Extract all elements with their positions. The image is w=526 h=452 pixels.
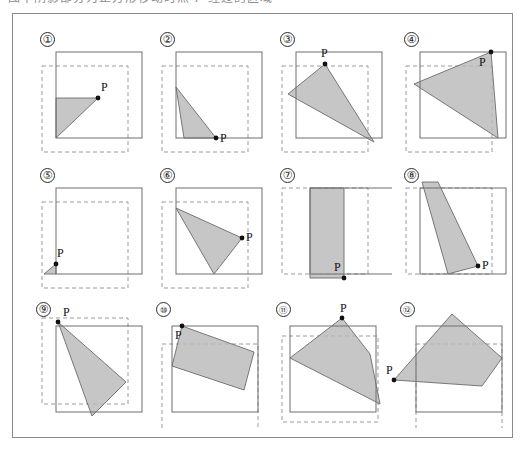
panel-12: ⑫P	[386, 296, 516, 428]
dashed-square-2	[162, 66, 248, 152]
point-p-dot-9	[56, 320, 61, 325]
panel-9: ⑨P	[22, 296, 152, 428]
shaded-region-11	[290, 318, 380, 404]
panel-2: ②P	[142, 24, 272, 156]
point-p-dot-3	[323, 62, 328, 67]
panel-3: ③P	[262, 24, 392, 156]
point-p-dot-4	[489, 50, 494, 55]
shaded-region-1	[56, 98, 98, 138]
top-caption-strip: 图中阴影部分为正方形移动时点 P 经过的区域	[0, 0, 526, 11]
point-p-label-11: P	[340, 302, 347, 314]
panel-7: ⑦P	[262, 160, 392, 292]
point-p-label-2: P	[220, 132, 227, 144]
panel-drawing-10	[142, 296, 272, 428]
panel-drawing-7	[262, 160, 392, 292]
panel-drawing-11	[262, 296, 392, 428]
point-p-dot-2	[214, 136, 219, 141]
point-p-dot-11	[340, 316, 345, 321]
figure-stage: 图中阴影部分为正方形移动时点 P 经过的区域 ①P②P③P④P⑤P⑥P⑦P⑧P⑨…	[0, 0, 526, 452]
panel-drawing-6	[142, 160, 272, 292]
point-p-dot-1	[96, 96, 101, 101]
point-p-label-8: P	[482, 259, 489, 271]
panel-10: ⑩P	[142, 296, 272, 428]
point-p-dot-7	[342, 276, 347, 281]
panel-4: ④P	[386, 24, 516, 156]
panel-1: ①P	[22, 24, 152, 156]
caption-text: 图中阴影部分为正方形移动时点 P 经过的区域	[8, 0, 273, 5]
panel-drawing-3	[262, 24, 392, 156]
panel-drawing-1	[22, 24, 152, 156]
point-p-label-4: P	[479, 56, 486, 68]
shaded-region-6	[176, 208, 242, 274]
shaded-region-8	[422, 182, 478, 274]
panel-8: ⑧P	[386, 160, 516, 292]
point-p-dot-5	[54, 262, 59, 267]
panel-5: ⑤P	[22, 160, 152, 292]
point-p-label-3: P	[321, 47, 328, 59]
shaded-region-9	[58, 322, 126, 416]
point-p-dot-8	[476, 264, 481, 269]
point-p-label-10: P	[175, 329, 182, 341]
point-p-dot-12	[392, 378, 397, 383]
panel-6: ⑥P	[142, 160, 272, 292]
shaded-region-10	[172, 326, 254, 390]
point-p-label-9: P	[63, 306, 70, 318]
panel-11: ⑪P	[262, 296, 392, 428]
panel-drawing-9	[22, 296, 152, 428]
shaded-region-2	[176, 87, 216, 138]
panel-drawing-8	[386, 160, 516, 292]
point-p-label-12: P	[386, 364, 393, 376]
point-p-label-7: P	[334, 261, 341, 273]
shaded-region-12	[394, 314, 502, 386]
panel-drawing-2	[142, 24, 272, 156]
solid-square-5	[56, 188, 142, 274]
panel-drawing-12	[386, 296, 516, 428]
point-p-label-1: P	[101, 81, 108, 93]
point-p-label-6: P	[246, 231, 253, 243]
point-p-dot-6	[240, 236, 245, 241]
panel-drawing-4	[386, 24, 516, 156]
dashed-square-5	[42, 202, 128, 288]
panel-drawing-5	[22, 160, 152, 292]
point-p-label-5: P	[57, 247, 64, 259]
shaded-region-3	[288, 64, 374, 142]
